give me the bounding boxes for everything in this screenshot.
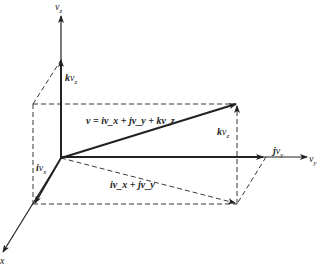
kvz-label: kvz	[65, 73, 77, 86]
v-vector	[61, 104, 236, 158]
diagram-lines	[0, 0, 325, 269]
z-axis-label: vz	[55, 2, 62, 15]
kvz-right-label: kvz	[217, 127, 229, 140]
vector-diagram: vz kvz v = iv_x + jv_y + kv_z kvz jvy vy…	[0, 0, 325, 269]
ivx-label: ivx	[36, 163, 46, 176]
x-axis-label: x	[0, 256, 4, 266]
ivx-jvy-label: iv_x + jv_y	[110, 180, 155, 190]
y-axis-label: vy	[309, 154, 317, 167]
jvy-label: jvy	[273, 146, 283, 159]
v-label: v = iv_x + jv_y + kv_z	[86, 116, 175, 126]
